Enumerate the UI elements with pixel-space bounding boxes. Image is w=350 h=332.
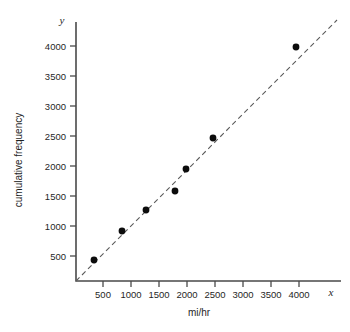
data-point <box>183 166 190 173</box>
x-tick-label: 3500 <box>260 289 281 300</box>
x-axis-tick-labels: 500 1000 1500 2000 2500 3000 3500 4000 <box>95 289 310 300</box>
chart-figure: 4000 3500 3000 2500 2000 1500 1000 500 5… <box>0 0 350 332</box>
data-point <box>143 207 150 214</box>
y-tick-label: 1000 <box>45 221 66 232</box>
y-tick-label: 2000 <box>45 161 66 172</box>
y-tick-label: 1500 <box>45 191 66 202</box>
x-axis-ticks <box>103 281 299 287</box>
y-tick-label: 3500 <box>45 71 66 82</box>
y-tick-label: 500 <box>50 251 66 262</box>
y-axis-ticks <box>70 46 76 256</box>
y-axis-letter: y <box>59 14 65 26</box>
x-tick-label: 4000 <box>288 289 309 300</box>
x-tick-label: 1500 <box>148 289 169 300</box>
data-point <box>293 44 300 51</box>
y-tick-label: 2500 <box>45 131 66 142</box>
x-axis-title: mi/hr <box>188 307 211 318</box>
x-tick-label: 1000 <box>120 289 141 300</box>
data-point <box>210 135 217 142</box>
data-point <box>119 228 126 235</box>
y-axis-title: cumulative frequency <box>13 113 24 208</box>
data-points-group <box>91 44 300 264</box>
axis-lines <box>76 22 341 281</box>
x-axis-letter: x <box>328 286 334 298</box>
data-point <box>91 257 98 264</box>
x-tick-label: 2500 <box>204 289 225 300</box>
x-tick-label: 3000 <box>232 289 253 300</box>
x-tick-label: 2000 <box>176 289 197 300</box>
x-tick-label: 500 <box>95 289 111 300</box>
reference-line <box>76 20 337 281</box>
y-tick-label: 4000 <box>45 41 66 52</box>
y-axis-tick-labels: 4000 3500 3000 2500 2000 1500 1000 500 <box>45 41 66 262</box>
y-tick-label: 3000 <box>45 101 66 112</box>
scatter-plot-canvas: 4000 3500 3000 2500 2000 1500 1000 500 5… <box>0 0 350 332</box>
data-point <box>172 188 179 195</box>
